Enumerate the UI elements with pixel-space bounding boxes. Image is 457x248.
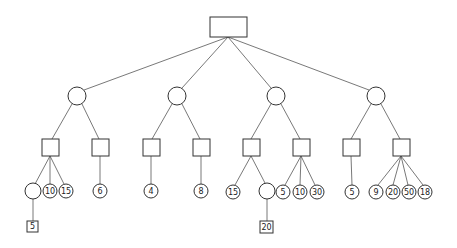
root-decision-node xyxy=(210,17,247,37)
decision-node xyxy=(42,139,59,156)
svg-text:5: 5 xyxy=(349,188,354,197)
svg-text:6: 6 xyxy=(97,187,102,196)
leaf-node: 6 xyxy=(93,184,107,198)
leaf-node: 9 xyxy=(369,185,383,199)
leaf-node: 4 xyxy=(144,184,158,198)
leaf-node: 30 xyxy=(310,185,324,199)
decision-node xyxy=(193,139,210,156)
svg-text:20: 20 xyxy=(261,223,271,232)
leaf-node: 50 xyxy=(402,185,416,199)
svg-text:15: 15 xyxy=(61,187,71,196)
leaf-node: 8 xyxy=(194,184,208,198)
svg-text:20: 20 xyxy=(388,188,398,197)
decision-node xyxy=(143,139,160,156)
svg-text:18: 18 xyxy=(420,188,430,197)
chance-node xyxy=(259,183,275,199)
svg-text:50: 50 xyxy=(404,188,414,197)
leaf-node: 5 xyxy=(276,185,290,199)
terminal-box: 20 xyxy=(260,221,273,233)
decision-node xyxy=(92,139,109,156)
svg-text:4: 4 xyxy=(148,187,153,196)
decision-node xyxy=(243,139,260,156)
leaf-node: 18 xyxy=(418,185,432,199)
svg-text:10: 10 xyxy=(295,188,305,197)
leaf-node: 10 xyxy=(43,184,57,198)
game-tree-diagram: 10 15 6 4 8 15 5 10 30 5 9 20 50 18 5 20 xyxy=(0,0,457,248)
svg-text:15: 15 xyxy=(228,188,238,197)
chance-node xyxy=(68,87,86,105)
leaf-node: 20 xyxy=(386,185,400,199)
leaf-node: 15 xyxy=(226,185,240,199)
leaf-node: 15 xyxy=(59,184,73,198)
svg-text:5: 5 xyxy=(280,188,285,197)
terminal-box: 5 xyxy=(27,221,38,232)
leaf-node: 10 xyxy=(293,185,307,199)
leaf-node: 5 xyxy=(345,185,359,199)
chance-node xyxy=(168,87,186,105)
decision-node xyxy=(293,139,310,156)
chance-node xyxy=(25,183,41,199)
svg-text:8: 8 xyxy=(198,187,203,196)
svg-text:10: 10 xyxy=(45,187,55,196)
chance-node xyxy=(367,87,385,105)
decision-node xyxy=(343,139,360,156)
svg-text:30: 30 xyxy=(312,188,322,197)
svg-text:9: 9 xyxy=(373,188,378,197)
decision-node xyxy=(393,139,410,156)
svg-text:5: 5 xyxy=(30,222,35,231)
chance-node xyxy=(267,87,285,105)
